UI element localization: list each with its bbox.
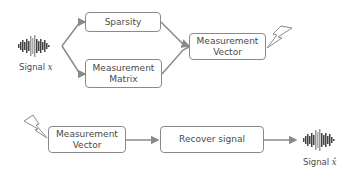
waveform-icon — [18, 35, 50, 57]
lightning-icon — [267, 26, 292, 48]
lightning-icon — [24, 115, 47, 138]
signal-xhat-label: Signal x̂ — [303, 157, 337, 167]
sparsity-box: Sparsity — [85, 12, 161, 32]
measurement-vector-box-bottom: Measurement Vector — [48, 126, 126, 153]
measurement-matrix-box: Measurement Matrix — [85, 59, 162, 88]
recover-signal-box: Recover signal — [160, 126, 264, 153]
waveform-icon — [303, 129, 335, 151]
signal-x-label: Signal x — [19, 62, 53, 72]
measurement-vector-box: Measurement Vector — [189, 33, 266, 60]
